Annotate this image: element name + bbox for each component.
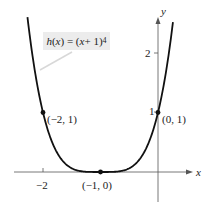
x-axis-label: x (196, 167, 201, 178)
point-label-neg2-1: (−2, 1) (47, 114, 77, 125)
data-point-marker (156, 110, 161, 115)
point-label-0-1: (0, 1) (162, 114, 186, 125)
chart: h(x) = (x + 1)4 y x −2 2 1 (−2, 1) (−1, … (0, 0, 208, 211)
y-tick-label-2: 2 (145, 48, 151, 59)
x-tick-label-neg2: −2 (36, 180, 48, 191)
y-axis-arrow-icon (156, 17, 161, 24)
function-label: h(x) = (x + 1)4 (43, 32, 110, 50)
eq-exponent: 4 (103, 36, 107, 45)
y-tick-label-1: 1 (149, 106, 155, 117)
data-point-marker (98, 170, 103, 175)
label-leader-line (40, 52, 72, 70)
point-label-neg1-0: (−1, 0) (82, 180, 112, 191)
eq-mid: ) = ( (61, 35, 80, 47)
eq-tail: + 1) (84, 35, 102, 47)
data-point-marker (41, 110, 46, 115)
y-axis-label: y (161, 6, 166, 17)
x-axis-arrow-icon (186, 170, 193, 175)
